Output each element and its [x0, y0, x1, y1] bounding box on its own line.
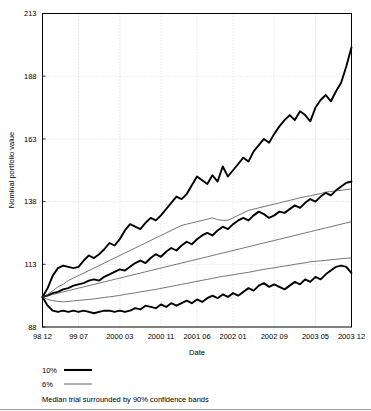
y-tick-label: 88	[28, 323, 36, 332]
y-tick-label: 113	[25, 260, 37, 269]
x-tick-label: 98 12	[33, 332, 52, 341]
y-tick-label: 138	[24, 197, 37, 206]
chart-caption: Median trial surrounded by 90% confidenc…	[42, 395, 209, 404]
x-tick-label: 2000 03	[106, 332, 133, 341]
chart-container: 88113138163188213 98 1299 072000 032000 …	[0, 0, 371, 411]
x-tick-label: 99 07	[69, 332, 88, 341]
y-tick-label: 163	[24, 135, 37, 144]
x-axis-title: Date	[189, 348, 205, 357]
y-axis-title: Nominal portfolio value	[7, 132, 16, 208]
y-tick-label: 188	[24, 72, 37, 81]
x-tick-label: 2000 11	[148, 332, 175, 341]
x-axis-tick-labels: 98 1299 072000 032000 112001 062002 0120…	[33, 332, 365, 341]
x-tick-label: 2002 01	[219, 332, 246, 341]
x-tick-label: 2003 05	[302, 332, 329, 341]
legend-item-label-10pct: 10%	[42, 366, 57, 375]
portfolio-value-line-chart: 88113138163188213 98 1299 072000 032000 …	[0, 0, 371, 411]
y-tick-label: 213	[24, 9, 37, 18]
legend-item-label-6pct: 6%	[42, 380, 53, 389]
x-tick-label: 2001 06	[183, 332, 210, 341]
x-tick-label: 2002 09	[261, 332, 288, 341]
x-tick-label: 2003 12	[338, 332, 365, 341]
